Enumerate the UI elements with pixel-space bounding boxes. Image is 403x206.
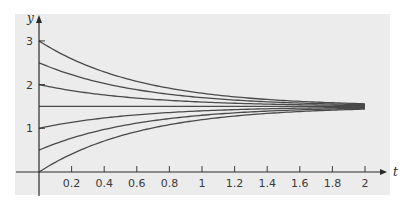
x-tick-label: 1 <box>199 177 206 190</box>
x-tick-label: 0.2 <box>63 177 81 190</box>
y-tick-label: 3 <box>26 35 33 48</box>
x-tick-label: 2 <box>362 177 369 190</box>
x-tick-label: 1.8 <box>324 177 342 190</box>
x-tick-label: 0.6 <box>128 177 146 190</box>
x-tick-label: 1.6 <box>291 177 309 190</box>
x-tick-label: 1.2 <box>226 177 244 190</box>
x-tick-label: 0.8 <box>161 177 179 190</box>
solution-curves-chart: t y 0.20.40.60.811.21.41.61.82 123 <box>0 0 403 206</box>
x-tick-label: 0.4 <box>95 177 113 190</box>
y-tick-label: 1 <box>26 122 33 135</box>
y-tick-label: 2 <box>26 79 33 92</box>
x-tick-label: 1.4 <box>258 177 276 190</box>
y-axis-label: y <box>26 11 34 25</box>
x-axis-label: t <box>393 165 398 179</box>
